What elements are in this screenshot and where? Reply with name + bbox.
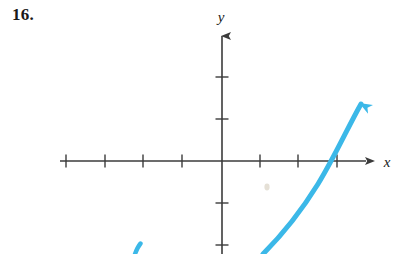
figure-root: 16. bbox=[0, 0, 411, 254]
x-axis-label: x bbox=[383, 154, 391, 170]
curve-fragment-bottom-left bbox=[135, 244, 141, 254]
coordinate-graph: x y bbox=[0, 0, 411, 254]
scan-artifact bbox=[264, 184, 269, 191]
curve-increasing bbox=[263, 104, 361, 254]
y-axis-label: y bbox=[216, 9, 225, 25]
